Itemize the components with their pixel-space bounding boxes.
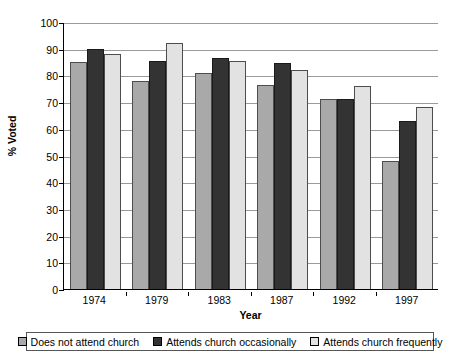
bar xyxy=(132,81,149,289)
y-tick-label: 20 xyxy=(28,232,58,242)
y-tick-mark xyxy=(59,263,64,264)
y-tick-label: 100 xyxy=(28,18,58,28)
y-tick-mark xyxy=(59,50,64,51)
legend-item: Does not attend church xyxy=(18,336,140,348)
x-axis-title: Year xyxy=(63,309,438,321)
y-tick-mark xyxy=(59,237,64,238)
y-tick-label: 0 xyxy=(28,285,58,295)
bar-chart: % Voted 0102030405060708090100 197419791… xyxy=(0,0,460,357)
x-tick-label: 1997 xyxy=(377,294,437,306)
y-tick-label: 30 xyxy=(28,205,58,215)
x-tick-mark xyxy=(376,292,377,296)
legend-swatch-icon xyxy=(153,337,162,346)
bar xyxy=(337,99,354,289)
bar xyxy=(104,54,121,289)
bar xyxy=(195,73,212,289)
y-tick-mark xyxy=(59,23,64,24)
y-tick-mark xyxy=(59,183,64,184)
bar xyxy=(166,43,183,289)
plot-area xyxy=(63,23,438,290)
x-tick-label: 1987 xyxy=(252,294,312,306)
bar xyxy=(70,62,87,289)
y-tick-label: 60 xyxy=(28,125,58,135)
legend-swatch-icon xyxy=(310,337,319,346)
bar xyxy=(212,58,229,289)
bar-group xyxy=(320,23,371,289)
bar xyxy=(382,161,399,289)
bar-group xyxy=(132,23,183,289)
legend-label: Attends church occasionally xyxy=(166,336,296,348)
legend-item: Attends church frequently xyxy=(310,336,442,348)
bar xyxy=(149,61,166,289)
x-tick-label: 1983 xyxy=(189,294,249,306)
y-tick-label: 10 xyxy=(28,258,58,268)
bar xyxy=(274,63,291,289)
y-tick-mark xyxy=(59,130,64,131)
y-tick-mark xyxy=(59,103,64,104)
legend-label: Attends church frequently xyxy=(323,336,442,348)
y-tick-label: 70 xyxy=(28,98,58,108)
y-tick-label: 90 xyxy=(28,45,58,55)
x-tick-mark xyxy=(188,292,189,296)
x-axis-labels: 197419791983198719921997 xyxy=(63,292,438,308)
bar-group xyxy=(257,23,308,289)
bar xyxy=(399,121,416,289)
y-tick-label: 80 xyxy=(28,71,58,81)
bar xyxy=(87,49,104,289)
bar xyxy=(291,70,308,289)
x-tick-mark xyxy=(126,292,127,296)
chart-legend: Does not attend churchAttends church occ… xyxy=(26,332,434,351)
y-axis-labels: 0102030405060708090100 xyxy=(25,23,58,290)
bar-group xyxy=(382,23,433,289)
bar-group xyxy=(195,23,246,289)
y-tick-label: 50 xyxy=(28,152,58,162)
bar xyxy=(354,86,371,289)
x-tick-label: 1974 xyxy=(64,294,124,306)
bar xyxy=(257,85,274,289)
bar xyxy=(320,99,337,289)
y-tick-mark xyxy=(59,157,64,158)
x-tick-mark xyxy=(313,292,314,296)
y-tick-mark xyxy=(59,290,64,291)
x-tick-mark xyxy=(251,292,252,296)
legend-swatch-icon xyxy=(18,337,27,346)
y-tick-mark xyxy=(59,76,64,77)
bar-group xyxy=(70,23,121,289)
x-tick-label: 1992 xyxy=(314,294,374,306)
legend-item: Attends church occasionally xyxy=(153,336,296,348)
y-tick-mark xyxy=(59,210,64,211)
legend-label: Does not attend church xyxy=(31,336,140,348)
x-tick-label: 1979 xyxy=(127,294,187,306)
bar xyxy=(229,61,246,289)
bar xyxy=(416,107,433,289)
y-axis-title: % Voted xyxy=(6,101,18,171)
y-tick-label: 40 xyxy=(28,178,58,188)
